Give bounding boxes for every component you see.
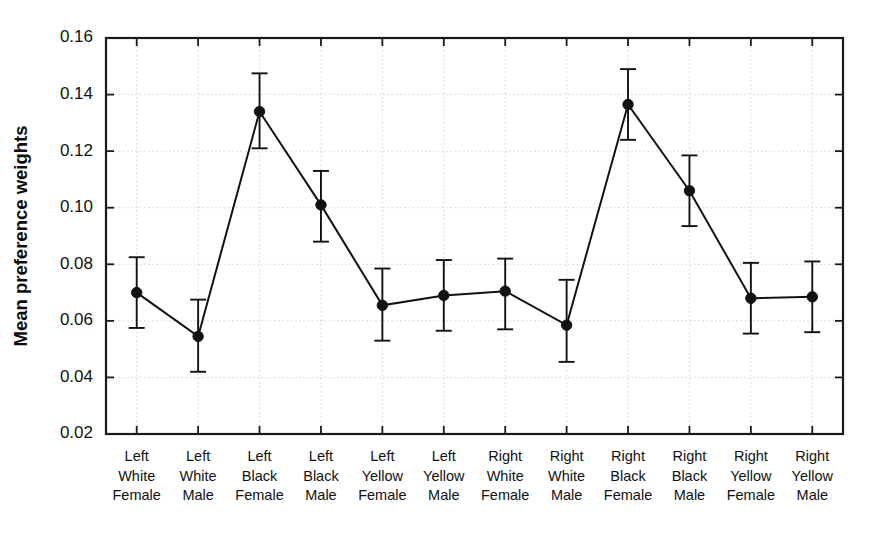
x-category-label-line: Yellow <box>792 468 834 484</box>
x-category-label: RightYellowFemale <box>727 448 775 503</box>
x-category-label-line: White <box>548 468 585 484</box>
x-category-label-line: Black <box>303 468 339 484</box>
x-category-label-line: Black <box>242 468 278 484</box>
data-point-marker <box>746 293 756 303</box>
data-point-marker <box>132 287 142 297</box>
y-tick-label: 0.02 <box>60 423 93 442</box>
y-tick-label: 0.08 <box>60 254 93 273</box>
x-category-label-line: Female <box>481 487 529 503</box>
x-category-label-line: Right <box>673 448 707 464</box>
x-category-label-line: Left <box>186 448 210 464</box>
data-point-marker <box>623 99 633 109</box>
y-tick-label: 0.10 <box>60 197 93 216</box>
data-point-marker <box>377 300 387 310</box>
data-point-marker <box>254 106 264 116</box>
line-chart-with-error-bars: 0.020.040.060.080.100.120.140.16 Mean pr… <box>0 0 874 539</box>
x-category-label: RightWhiteFemale <box>481 448 529 503</box>
y-tick-label: 0.16 <box>60 27 93 46</box>
data-point-marker <box>684 186 694 196</box>
x-category-label: RightYellowMale <box>792 448 834 503</box>
x-category-label-line: Right <box>550 448 584 464</box>
x-category-label-line: Male <box>674 487 705 503</box>
x-category-label-line: Right <box>734 448 768 464</box>
x-category-label-line: Left <box>370 448 394 464</box>
x-category-label-line: Right <box>488 448 522 464</box>
y-axis-label: Mean preference weights <box>10 125 31 346</box>
x-category-label-line: Female <box>727 487 775 503</box>
data-point-marker <box>316 200 326 210</box>
x-category-label-line: White <box>118 468 155 484</box>
x-category-label-line: Female <box>113 487 161 503</box>
x-category-label-line: Male <box>551 487 582 503</box>
x-category-label-line: Male <box>428 487 459 503</box>
x-category-label-line: White <box>487 468 524 484</box>
x-category-label-line: Yellow <box>423 468 465 484</box>
x-category-label: RightBlackFemale <box>604 448 652 503</box>
x-category-label-line: Left <box>309 448 333 464</box>
x-category-label-line: Right <box>611 448 645 464</box>
y-tick-label: 0.12 <box>60 141 93 160</box>
x-category-label-line: Left <box>247 448 271 464</box>
data-point-marker <box>439 290 449 300</box>
y-tick-label: 0.14 <box>60 84 93 103</box>
x-category-label-line: Male <box>797 487 828 503</box>
x-category-label-line: Black <box>672 468 708 484</box>
x-category-label-line: Yellow <box>362 468 404 484</box>
data-point-marker <box>561 320 571 330</box>
x-category-label-line: Female <box>604 487 652 503</box>
x-category-label-line: Yellow <box>730 468 772 484</box>
y-tick-label: 0.04 <box>60 367 93 386</box>
chart-figure: 0.020.040.060.080.100.120.140.16 Mean pr… <box>0 0 874 539</box>
y-axis-title: Mean preference weights <box>10 125 31 346</box>
data-point-marker <box>193 331 203 341</box>
x-category-label: RightBlackMale <box>672 448 708 503</box>
x-category-label-line: Right <box>795 448 829 464</box>
y-tick-label: 0.06 <box>60 310 93 329</box>
data-point-marker <box>807 292 817 302</box>
x-category-label: RightWhiteMale <box>548 448 585 503</box>
data-point-marker <box>500 286 510 296</box>
x-category-label-line: Male <box>305 487 336 503</box>
x-category-label-line: Left <box>125 448 149 464</box>
x-category-label-line: White <box>180 468 217 484</box>
x-category-label-line: Female <box>235 487 283 503</box>
x-category-label-line: Black <box>610 468 646 484</box>
x-category-label-line: Male <box>182 487 213 503</box>
x-category-label-line: Female <box>358 487 406 503</box>
x-category-label-line: Left <box>432 448 456 464</box>
